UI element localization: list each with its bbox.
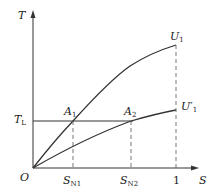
tick-sn1: SN1 (63, 175, 81, 188)
y-axis-label: T (18, 10, 25, 21)
load-torque-label: TL (14, 114, 26, 127)
curve-u1 (33, 45, 176, 168)
y-axis-arrow-icon (31, 10, 36, 18)
point-a2-label: A2 (124, 106, 136, 119)
x-axis-label: S (199, 175, 207, 186)
tick-sn2: SN2 (120, 175, 138, 188)
torque-slip-diagram: T S O TL U1 U′1 A1 A2 SN1 SN2 1 (0, 0, 210, 194)
x-axis-arrow-icon (191, 166, 199, 171)
point-a1-label: A1 (64, 106, 76, 119)
curve-u1-prime-label: U′1 (181, 101, 197, 114)
curve-u1-label: U1 (170, 31, 184, 44)
tick-one: 1 (173, 175, 180, 186)
origin-label: O (20, 172, 29, 183)
curve-u1-prime (33, 110, 176, 168)
